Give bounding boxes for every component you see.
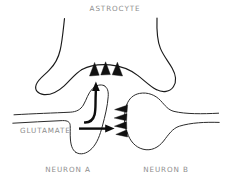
astrocyte-left-process xyxy=(36,19,82,95)
neuron-b-receptor-triangle-2 xyxy=(114,113,127,120)
neuron-b-receptor-triangles xyxy=(114,105,127,137)
glutamate-transmission-arrow xyxy=(79,125,115,133)
astrocyte-transporter-triangle-3 xyxy=(112,62,122,76)
astrocyte-cell xyxy=(36,18,176,95)
glutamate-transmission-arrow-head xyxy=(105,125,114,133)
glutamate-uptake-arrow-shaft xyxy=(84,89,96,123)
neuron-a-cell xyxy=(13,85,108,154)
diagram-canvas: ASTROCYTE GLUTAMATE NEURON A NEURON B xyxy=(0,0,230,184)
neuron-a-label: NEURON A xyxy=(45,165,91,174)
neuron-b-receptor-triangle-1 xyxy=(115,105,128,113)
tripartite-synapse-diagram: ASTROCYTE GLUTAMATE NEURON A NEURON B xyxy=(0,0,230,184)
neuron-b-cell xyxy=(114,93,219,150)
neuron-b-lower-membrane xyxy=(127,122,219,149)
neuron-b-upper-membrane xyxy=(127,93,219,114)
neuron-b-label: NEURON B xyxy=(143,165,189,174)
neuron-b-receptor-triangle-3 xyxy=(114,122,126,129)
glutamate-uptake-arrow xyxy=(84,82,100,123)
astrocyte-label: ASTROCYTE xyxy=(90,4,141,13)
astrocyte-transporter-triangle-2 xyxy=(101,62,111,75)
astrocyte-transporter-triangles xyxy=(90,62,123,76)
glutamate-uptake-arrow-head xyxy=(92,82,100,91)
astrocyte-right-process xyxy=(156,18,175,92)
neuron-b-receptor-triangle-4 xyxy=(116,130,128,137)
glutamate-label: GLUTAMATE xyxy=(20,126,71,135)
